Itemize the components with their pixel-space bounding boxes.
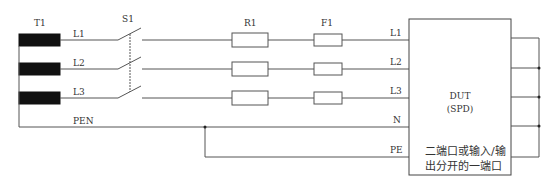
dut-note-line2: 出分开的一端口 <box>425 159 502 173</box>
label-dut-l2: L2 <box>390 57 402 67</box>
fuse-l2 <box>314 63 342 75</box>
transformer-winding-l1 <box>19 34 60 46</box>
label-src-l3: L3 <box>73 87 85 97</box>
dut-title: DUT <box>450 91 471 101</box>
resistor-l2 <box>232 62 268 76</box>
dut-note-line1: 二端口或输入/输 <box>425 144 506 158</box>
label-src-l1: L1 <box>73 29 85 39</box>
fuse-l3 <box>314 92 342 104</box>
junction-dot-bus-2 <box>538 67 541 70</box>
resistor-l1 <box>232 33 268 47</box>
label-src-l2: L2 <box>73 58 85 68</box>
resistor-l3 <box>232 91 268 105</box>
circuit-diagram: T1 S1 R1 F1 L1 L2 L3 PEN L1 L2 L3 N PE D… <box>0 0 557 189</box>
junction-dot-bus-3 <box>538 96 541 99</box>
label-t1: T1 <box>34 18 46 28</box>
dut-subtitle: (SPD) <box>447 104 473 114</box>
label-dut-n: N <box>393 115 401 125</box>
label-s1: S1 <box>122 14 134 24</box>
label-f1: F1 <box>321 18 333 28</box>
transformer-winding-l2 <box>19 63 60 75</box>
fuse-l1 <box>314 34 342 46</box>
label-r1: R1 <box>244 18 257 28</box>
label-src-pen: PEN <box>73 116 94 126</box>
label-dut-l3: L3 <box>390 86 402 96</box>
transformer-winding-l3 <box>19 92 60 104</box>
label-dut-l1: L1 <box>390 28 402 38</box>
label-dut-pe: PE <box>390 145 403 155</box>
junction-dot-pen <box>204 126 207 129</box>
junction-dot-bus-4 <box>538 125 541 128</box>
